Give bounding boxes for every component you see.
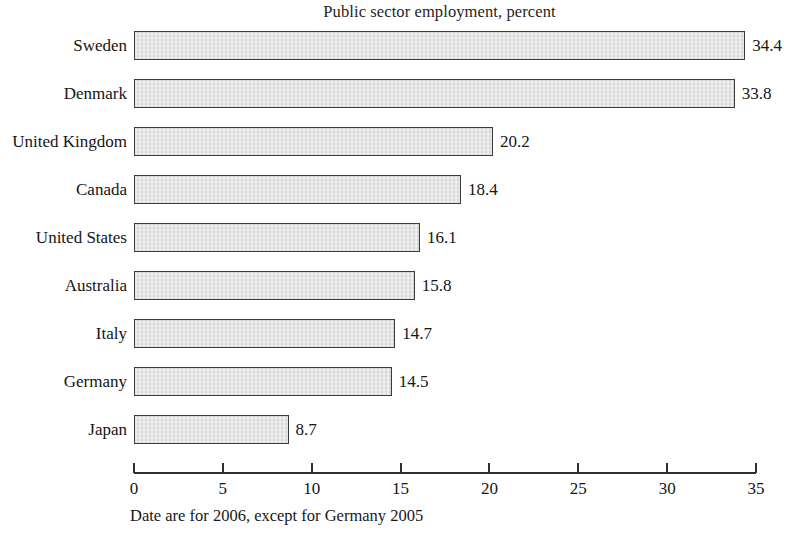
x-axis-tick-label: 35 bbox=[748, 479, 765, 499]
bar-value-label: 34.4 bbox=[752, 36, 782, 56]
x-axis-tick bbox=[400, 463, 402, 473]
category-label: United Kingdom bbox=[12, 132, 127, 152]
bar-row: United Kingdom20.2 bbox=[0, 127, 787, 156]
x-axis-tick-label: 30 bbox=[659, 479, 676, 499]
bar-row: Australia15.8 bbox=[0, 271, 787, 300]
category-label: Italy bbox=[96, 324, 127, 344]
bar bbox=[134, 175, 461, 204]
x-axis-tick-label: 15 bbox=[392, 479, 409, 499]
chart-footnote: Date are for 2006, except for Germany 20… bbox=[130, 506, 423, 526]
bar-value-label: 20.2 bbox=[500, 132, 530, 152]
x-axis-tick-label: 0 bbox=[130, 479, 139, 499]
bar-row: Germany14.5 bbox=[0, 367, 787, 396]
bar-value-label: 14.7 bbox=[402, 324, 432, 344]
bar-value-label: 18.4 bbox=[468, 180, 498, 200]
x-axis-tick bbox=[222, 463, 224, 473]
bar bbox=[134, 31, 745, 60]
bar-value-label: 14.5 bbox=[399, 372, 429, 392]
x-axis-tick-label: 20 bbox=[481, 479, 498, 499]
category-label: Denmark bbox=[64, 84, 127, 104]
bar bbox=[134, 271, 415, 300]
x-axis-tick bbox=[755, 463, 757, 473]
bar-value-label: 15.8 bbox=[422, 276, 452, 296]
category-label: United States bbox=[36, 228, 127, 248]
x-axis-tick bbox=[488, 463, 490, 473]
bar bbox=[134, 415, 289, 444]
bar-row: Denmark33.8 bbox=[0, 79, 787, 108]
bar bbox=[134, 223, 420, 252]
bar-row: Canada18.4 bbox=[0, 175, 787, 204]
x-axis-tick bbox=[311, 463, 313, 473]
category-label: Sweden bbox=[73, 36, 127, 56]
category-label: Germany bbox=[64, 372, 127, 392]
bar-row: Japan8.7 bbox=[0, 415, 787, 444]
bar-row: Sweden34.4 bbox=[0, 31, 787, 60]
x-axis-tick bbox=[577, 463, 579, 473]
bar-value-label: 33.8 bbox=[742, 84, 772, 104]
x-axis-tick-label: 5 bbox=[219, 479, 228, 499]
bar bbox=[134, 367, 392, 396]
bar-value-label: 16.1 bbox=[427, 228, 457, 248]
plot-area: Sweden34.4Denmark33.8United Kingdom20.2C… bbox=[0, 0, 787, 538]
bar-row: Italy14.7 bbox=[0, 319, 787, 348]
bar bbox=[134, 319, 395, 348]
bar-value-label: 8.7 bbox=[296, 420, 317, 440]
bar bbox=[134, 79, 735, 108]
bar-row: United States16.1 bbox=[0, 223, 787, 252]
category-label: Canada bbox=[76, 180, 127, 200]
x-axis-tick-label: 10 bbox=[303, 479, 320, 499]
x-axis-tick-label: 25 bbox=[570, 479, 587, 499]
x-axis-line bbox=[134, 472, 756, 474]
category-label: Japan bbox=[88, 420, 127, 440]
x-axis-tick bbox=[666, 463, 668, 473]
x-axis-tick bbox=[133, 463, 135, 473]
category-label: Australia bbox=[65, 276, 127, 296]
bar-chart: Public sector employment, percent Sweden… bbox=[0, 0, 787, 538]
bar bbox=[134, 127, 493, 156]
